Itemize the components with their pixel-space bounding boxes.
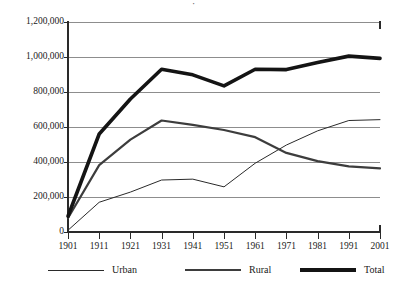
x-axis-tick-mark <box>162 233 163 239</box>
medium-line-swatch <box>185 269 241 271</box>
x-axis-tick-mark <box>68 233 69 239</box>
y-axis-tick-mark <box>64 197 69 198</box>
y-axis-tick-mark <box>64 57 69 58</box>
series-line-rural <box>68 121 380 218</box>
x-axis-tick-mark <box>349 233 350 239</box>
legend-label: Urban <box>112 262 137 278</box>
series-line-total <box>68 56 380 216</box>
x-axis-tick-mark <box>286 233 287 239</box>
x-axis-tick-mark <box>130 233 131 239</box>
legend-label: Rural <box>249 262 271 278</box>
thin-line-swatch <box>48 270 104 271</box>
y-axis-tick-mark <box>64 22 69 23</box>
y-axis-tick-mark <box>64 127 69 128</box>
thick-line-swatch <box>300 268 356 272</box>
series-line-urban <box>68 120 380 231</box>
legend-label: Total <box>364 262 384 278</box>
y-axis-tick-mark <box>64 162 69 163</box>
x-axis-tick-mark <box>255 233 256 239</box>
x-axis-tick-mark <box>380 233 381 239</box>
x-axis-tick-mark <box>99 233 100 239</box>
y-axis-tick-mark <box>64 92 69 93</box>
x-axis-tick-mark <box>224 233 225 239</box>
chart-legend: UrbanRuralTotal <box>0 262 387 282</box>
x-axis-tick-mark <box>318 233 319 239</box>
x-axis-tick-mark <box>193 233 194 239</box>
